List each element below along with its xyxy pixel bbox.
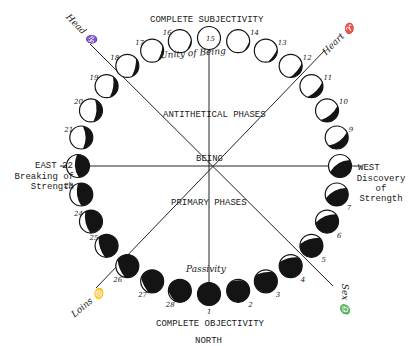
east-label: EAST 22 — [35, 161, 73, 171]
phase-number-26: 26 — [112, 276, 122, 284]
phase-number-6: 6 — [337, 232, 342, 240]
east-phase-number: 22 — [62, 161, 73, 171]
east-direction: EAST — [35, 161, 57, 171]
phase-number-28: 28 — [165, 301, 175, 309]
great-wheel-diagram: 1234567891011121314151617181920212223242… — [0, 0, 416, 346]
breaking-of-strength-caption: Breaking of Strength — [10, 172, 74, 192]
being-label: BEING — [196, 154, 223, 164]
phase-number-25: 25 — [89, 234, 99, 242]
phase-number-17: 17 — [135, 39, 144, 47]
diagonal-head-loins-line — [90, 44, 333, 286]
phase-moon-5: 5 — [298, 234, 326, 264]
phase-number-18: 18 — [110, 54, 119, 62]
phase-number-16: 16 — [163, 29, 172, 37]
primary-phases-label: PRIMARY PHASES — [171, 198, 247, 208]
phase-number-10: 10 — [339, 98, 348, 106]
phase-moon-1: 1 — [198, 283, 221, 317]
discovery-of-strength-caption: Discovery of Strength — [350, 174, 412, 204]
phase-moon-27: 27 — [137, 266, 167, 299]
passivity-label: Passivity — [186, 264, 226, 274]
phase-moon-2: 2 — [226, 279, 253, 309]
diagonal-heart-sex-line — [96, 50, 325, 288]
phase-moon-6: 6 — [314, 210, 342, 240]
phase-number-3: 3 — [276, 291, 281, 299]
phase-number-21: 21 — [63, 126, 73, 134]
phase-number-4: 4 — [300, 276, 305, 284]
phase-number-9: 9 — [349, 126, 354, 134]
west-caption-line-2: of — [350, 184, 412, 194]
phase-number-14: 14 — [250, 29, 259, 37]
complete-objectivity-label: COMPLETE OBJECTIVITY — [156, 319, 264, 329]
phase-number-2: 2 — [247, 301, 253, 309]
complete-subjectivity-label: COMPLETE SUBJECTIVITY — [150, 15, 263, 25]
phase-number-5: 5 — [321, 256, 326, 264]
phase-number-7: 7 — [347, 204, 352, 212]
west-label: WEST — [358, 163, 380, 173]
phase-number-27: 27 — [137, 291, 147, 299]
phase-moon-28: 28 — [165, 275, 196, 309]
phase-moon-3: 3 — [253, 270, 281, 300]
phase-moon-10: 10 — [316, 98, 349, 126]
phase-number-1: 1 — [207, 308, 211, 316]
phase-moon-4: 4 — [278, 255, 306, 285]
phase-moon-9: 9 — [325, 126, 354, 154]
phase-moon-21: 21 — [63, 126, 93, 150]
north-label: NORTH — [195, 336, 222, 346]
phase-number-11: 11 — [323, 74, 332, 82]
sex-axis-label: Sex ♎ — [340, 284, 350, 314]
moon-dark-fill — [198, 283, 221, 306]
phase-number-19: 19 — [90, 74, 99, 82]
phase-number-15: 15 — [206, 35, 215, 43]
antithetical-phases-label: ANTITHETICAL PHASES — [163, 110, 266, 120]
phase-moon-11: 11 — [300, 74, 332, 102]
phase-moon-20: 20 — [73, 98, 103, 122]
west-caption-line-3: Strength — [350, 194, 412, 204]
phase-number-20: 20 — [73, 98, 83, 106]
sex-text: Sex — [340, 284, 350, 301]
phase-moon-18: 18 — [110, 54, 140, 78]
phase-moon-24: 24 — [73, 208, 105, 234]
phase-number-13: 13 — [278, 39, 287, 47]
phase-moon-26: 26 — [112, 251, 142, 284]
west-caption-line-1: Discovery — [350, 174, 412, 184]
east-caption-line-2: Strength — [10, 182, 74, 192]
phase-moon-19: 19 — [90, 74, 120, 98]
phase-moons: 1234567891011121314151617181920212223242… — [0, 0, 356, 316]
phase-moon-25: 25 — [89, 231, 121, 259]
phase-number-12: 12 — [303, 54, 312, 62]
phase-number-24: 24 — [73, 210, 83, 218]
libra-icon: ♎ — [340, 303, 350, 314]
phase-moon-7: 7 — [325, 183, 353, 213]
east-caption-line-1: Breaking of — [10, 172, 74, 182]
